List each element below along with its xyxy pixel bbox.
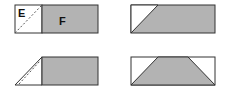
rect-f [42,5,98,33]
panel-1: E F [15,5,98,33]
folded-triangle [15,57,42,85]
gray-rect [42,57,98,85]
panel-3 [15,57,98,85]
panel-2 [131,5,215,33]
label-f: F [59,15,66,27]
panel-4 [131,57,215,85]
diagram-canvas: E F [0,0,227,92]
label-e: E [18,7,25,19]
